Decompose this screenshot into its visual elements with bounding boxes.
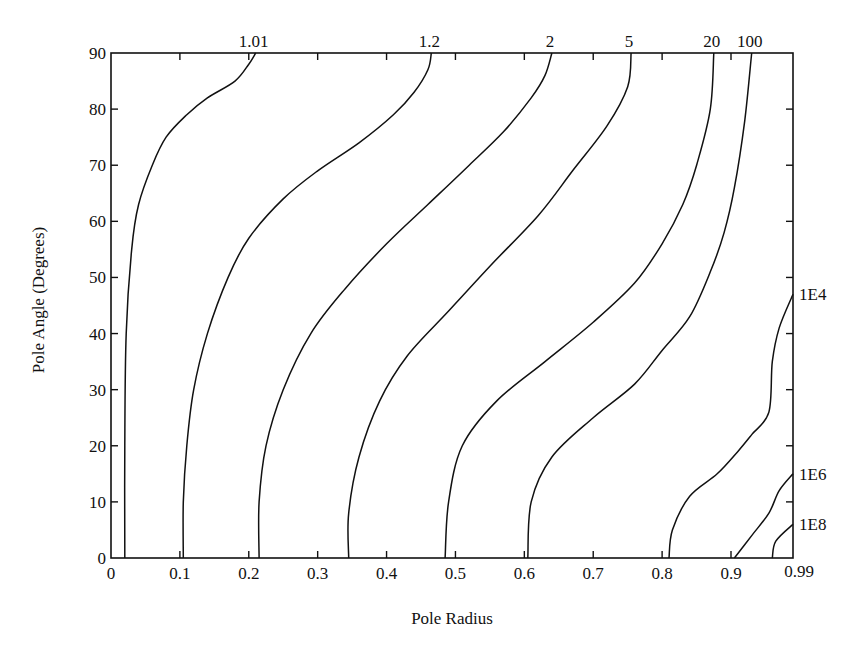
x-tick-label: 0 <box>107 564 116 583</box>
x-tick-label: 0.7 <box>583 564 605 583</box>
x-tick-label: 0.2 <box>238 564 259 583</box>
contour-label: 2 <box>546 32 555 51</box>
y-tick-label: 0 <box>98 549 107 568</box>
y-axis: 0102030405060708090 <box>89 44 118 568</box>
right-axis-ticks <box>786 109 793 502</box>
y-tick-label: 10 <box>89 493 106 512</box>
y-tick-label: 90 <box>89 44 106 63</box>
y-tick-label: 70 <box>89 156 106 175</box>
contour-label: 1.01 <box>239 32 269 51</box>
contour-line-1.2 <box>183 53 431 558</box>
y-tick-label: 60 <box>89 212 106 231</box>
contour-line-20 <box>445 53 714 558</box>
y-tick-label: 50 <box>89 268 106 287</box>
contour-label: 100 <box>737 32 763 51</box>
x-tick-label: 0.6 <box>514 564 535 583</box>
x-tick-label: 0.9 <box>720 564 741 583</box>
y-tick-label: 80 <box>89 100 106 119</box>
contour-labels: 1.011.225201001E41E61E8 <box>239 32 827 534</box>
y-axis-title: Pole Angle (Degrees) <box>29 227 48 373</box>
contour-label: 1.2 <box>419 32 440 51</box>
contour-chart: 00.10.20.30.40.50.60.70.80.90.99 0102030… <box>0 0 863 651</box>
contour-line-1E4 <box>669 294 793 558</box>
x-axis-title: Pole Radius <box>411 609 493 628</box>
top-axis-ticks <box>180 53 731 60</box>
contour-label: 1E4 <box>799 285 827 304</box>
y-tick-label: 30 <box>89 381 106 400</box>
contour-lines <box>125 53 793 558</box>
contour-line-100 <box>528 53 752 558</box>
contour-line-2 <box>259 53 552 558</box>
contour-line-5 <box>348 53 631 558</box>
contour-label: 20 <box>703 32 720 51</box>
contour-label: 1E6 <box>799 465 826 484</box>
x-tick-label: 0.3 <box>307 564 328 583</box>
contour-line-1E8 <box>772 524 793 558</box>
y-tick-label: 40 <box>89 325 106 344</box>
x-axis: 00.10.20.30.40.50.60.70.80.90.99 <box>107 551 814 583</box>
x-tick-label: 0.8 <box>651 564 672 583</box>
y-tick-label: 20 <box>89 437 106 456</box>
contour-line-1.01 <box>125 53 256 558</box>
x-tick-label: 0.4 <box>376 564 398 583</box>
contour-label: 5 <box>625 32 634 51</box>
x-tick-label: 0.1 <box>169 564 190 583</box>
contour-line-1E6 <box>734 474 793 558</box>
x-tick-label: 0.5 <box>445 564 466 583</box>
contour-label: 1E8 <box>799 515 826 534</box>
x-tick-label: 0.99 <box>784 562 814 581</box>
